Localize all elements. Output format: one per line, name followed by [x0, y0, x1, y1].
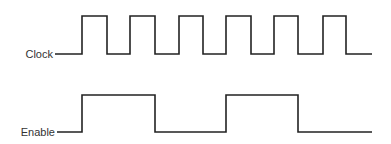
- signal-enable: Enable: [21, 95, 372, 138]
- clock-label: Clock: [25, 48, 53, 60]
- enable-label: Enable: [21, 126, 55, 138]
- timing-diagram: Clock Enable: [0, 0, 391, 144]
- enable-waveform: [57, 95, 372, 132]
- clock-waveform: [55, 16, 372, 54]
- signal-clock: Clock: [25, 16, 372, 60]
